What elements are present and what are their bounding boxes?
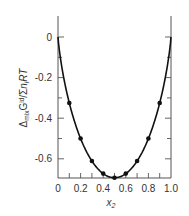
data-point: [78, 136, 83, 141]
x-tick-label: 0: [55, 183, 61, 194]
y-axis-label: ΔmixGid/ΣniRT: [18, 68, 30, 128]
mixing-curve: [58, 37, 171, 178]
x-axis-label: x2: [106, 197, 116, 209]
y-tick-label: 0: [46, 32, 52, 43]
x-tick-label: 0.8: [141, 183, 155, 194]
data-point: [157, 101, 162, 106]
x-tick-label: 0.2: [74, 183, 88, 194]
x-tick-labels: 00.20.40.60.81.0: [55, 183, 178, 194]
axes: [58, 16, 171, 178]
y-tick-label: -0.4: [35, 113, 53, 124]
y-tick-label: -0.2: [35, 72, 53, 83]
y-tick-label: -0.6: [35, 153, 53, 164]
x-tick-label: 0.6: [119, 183, 133, 194]
x-tick-label: 1.0: [164, 183, 178, 194]
tick-marks: [58, 37, 171, 178]
y-tick-labels: 0-0.2-0.4-0.6: [35, 32, 53, 165]
data-point: [67, 101, 72, 106]
x-tick-label: 0.4: [96, 183, 110, 194]
data-point: [112, 175, 117, 180]
data-point: [124, 171, 129, 176]
data-point: [101, 171, 106, 176]
data-point: [146, 136, 151, 141]
mixing-gibbs-chart: 00.20.40.60.81.0 0-0.2-0.4-0.6 x2 ΔmixGi…: [0, 0, 189, 216]
data-markers: [67, 101, 162, 180]
data-point: [90, 159, 95, 164]
data-point: [135, 159, 140, 164]
